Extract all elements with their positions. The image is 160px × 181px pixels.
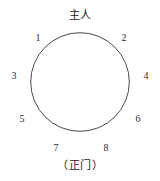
table-circle-svg xyxy=(30,32,130,132)
seat-number-4: 4 xyxy=(139,71,153,81)
round-table-outline xyxy=(30,32,130,132)
seat-number-8: 8 xyxy=(99,143,113,153)
seat-number-7: 7 xyxy=(49,143,63,153)
seat-number-2: 2 xyxy=(117,33,131,43)
host-label: 主人 xyxy=(69,10,92,21)
seating-diagram-figure: 主人 12345678 （正门） xyxy=(0,0,160,181)
seat-number-5: 5 xyxy=(15,114,29,124)
seat-number-6: 6 xyxy=(131,114,145,124)
front-door-label: （正门） xyxy=(57,160,103,171)
table-circle-shape xyxy=(31,33,130,132)
seat-number-3: 3 xyxy=(7,71,21,81)
seat-number-1: 1 xyxy=(31,33,45,43)
